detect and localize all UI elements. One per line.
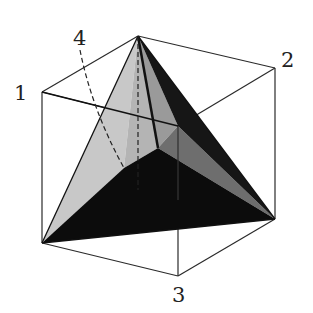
label-1: 1	[14, 81, 27, 105]
cube-tetrahedron-diagram: 1 2 3 4	[0, 0, 313, 313]
label-2: 2	[281, 48, 294, 72]
tetrahedron-faces	[42, 36, 275, 243]
label-4: 4	[73, 26, 86, 50]
label-3: 3	[172, 283, 185, 307]
